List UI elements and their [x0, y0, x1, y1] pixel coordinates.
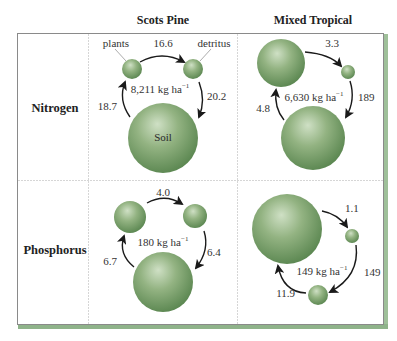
pool-size-unit-exponent: −1	[340, 264, 348, 272]
detritus-label: detritus	[198, 37, 231, 49]
detritus-sphere	[183, 59, 203, 79]
pool-size-value: 8,211 kg ha	[131, 83, 182, 95]
flow-value-plants-to-detritus: 3.3	[325, 37, 339, 49]
flow-value-detritus-to-soil: 6.4	[207, 246, 221, 258]
flow-value-soil-to-plants: 6.7	[103, 255, 117, 267]
flow-value-plants-to-detritus: 4.0	[156, 186, 170, 198]
flow-value-soil-to-plants: 4.8	[256, 102, 270, 114]
column-header-mixed-tropical: Mixed Tropical	[274, 13, 353, 27]
soil-sphere	[281, 106, 345, 170]
flow-value-soil-to-plants: 18.7	[98, 100, 118, 112]
pool-size-unit-exponent: −1	[182, 82, 190, 90]
soil-sphere	[133, 252, 193, 312]
flow-value-detritus-to-soil: 189	[358, 91, 375, 103]
pool-size-unit-exponent: −1	[336, 90, 344, 98]
pool-size-unit-exponent: −1	[181, 235, 189, 243]
soil-sphere	[308, 285, 328, 305]
nutrient-cycling-diagram: Scots Pine Mixed Tropical Nitrogen Phosp…	[0, 0, 397, 341]
plants-sphere	[257, 39, 305, 87]
column-header-scots-pine: Scots Pine	[137, 13, 190, 27]
pool-size-value: 180 kg ha	[138, 236, 182, 248]
row-header-nitrogen: Nitrogen	[32, 101, 79, 115]
pool-size-value: 6,630 kg ha	[284, 91, 336, 103]
frame-shadow-right	[384, 34, 388, 328]
row-header-phosphorus: Phosphorus	[23, 243, 86, 257]
detritus-sphere	[341, 65, 355, 79]
soil-label: Soil	[154, 131, 172, 143]
plants-sphere	[114, 201, 146, 233]
pool-size-label: 8,211 kg ha−1	[131, 82, 190, 95]
flow-value-soil-to-plants: 11.9	[276, 287, 295, 299]
flow-value-detritus-to-soil: 20.2	[207, 90, 226, 102]
detritus-sphere	[183, 204, 207, 228]
pool-size-label: 6,630 kg ha−1	[284, 90, 344, 103]
flow-value-plants-to-detritus: 16.6	[153, 37, 173, 49]
detritus-sphere	[345, 229, 359, 243]
flow-value-plants-to-detritus: 1.1	[345, 202, 359, 214]
table-frame	[18, 34, 384, 325]
flow-value-detritus-to-soil: 149	[364, 266, 381, 278]
plants-label: plants	[103, 37, 129, 49]
plants-sphere	[122, 59, 142, 79]
pool-size-value: 149 kg ha	[297, 265, 341, 277]
plants-sphere	[252, 194, 322, 264]
